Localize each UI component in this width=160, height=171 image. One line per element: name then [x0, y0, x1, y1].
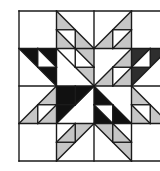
patch-light-gray — [150, 105, 160, 124]
quilt-grid — [0, 0, 160, 171]
patch-dark-gray — [150, 49, 160, 68]
patch-black — [57, 86, 76, 105]
quilt-grid-lines — [19, 11, 160, 161]
